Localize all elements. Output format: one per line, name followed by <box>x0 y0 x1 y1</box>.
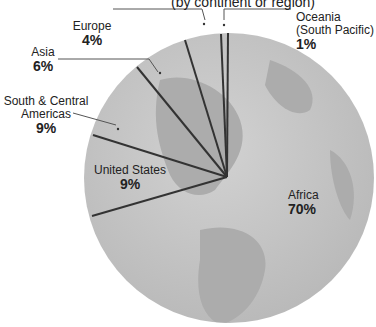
chart-subtitle: (by continent or region) <box>148 0 338 9</box>
label-africa: Africa 70% <box>288 189 338 217</box>
label-oceania-pct: 1% <box>296 37 376 52</box>
label-asia: Asia 6% <box>26 46 60 74</box>
label-us-pct: 9% <box>86 177 174 192</box>
label-asia-pct: 6% <box>26 59 60 74</box>
label-europe: Europe 4% <box>68 20 116 48</box>
label-sca-pct: 9% <box>2 121 90 136</box>
label-europe-pct: 4% <box>68 33 116 48</box>
label-oceania: Oceania (South Pacific) 1% <box>296 11 376 52</box>
label-united-states: United States 9% <box>86 164 174 192</box>
label-south-central-americas: South & Central Americas 9% <box>2 95 90 136</box>
label-africa-pct: 70% <box>288 202 338 217</box>
